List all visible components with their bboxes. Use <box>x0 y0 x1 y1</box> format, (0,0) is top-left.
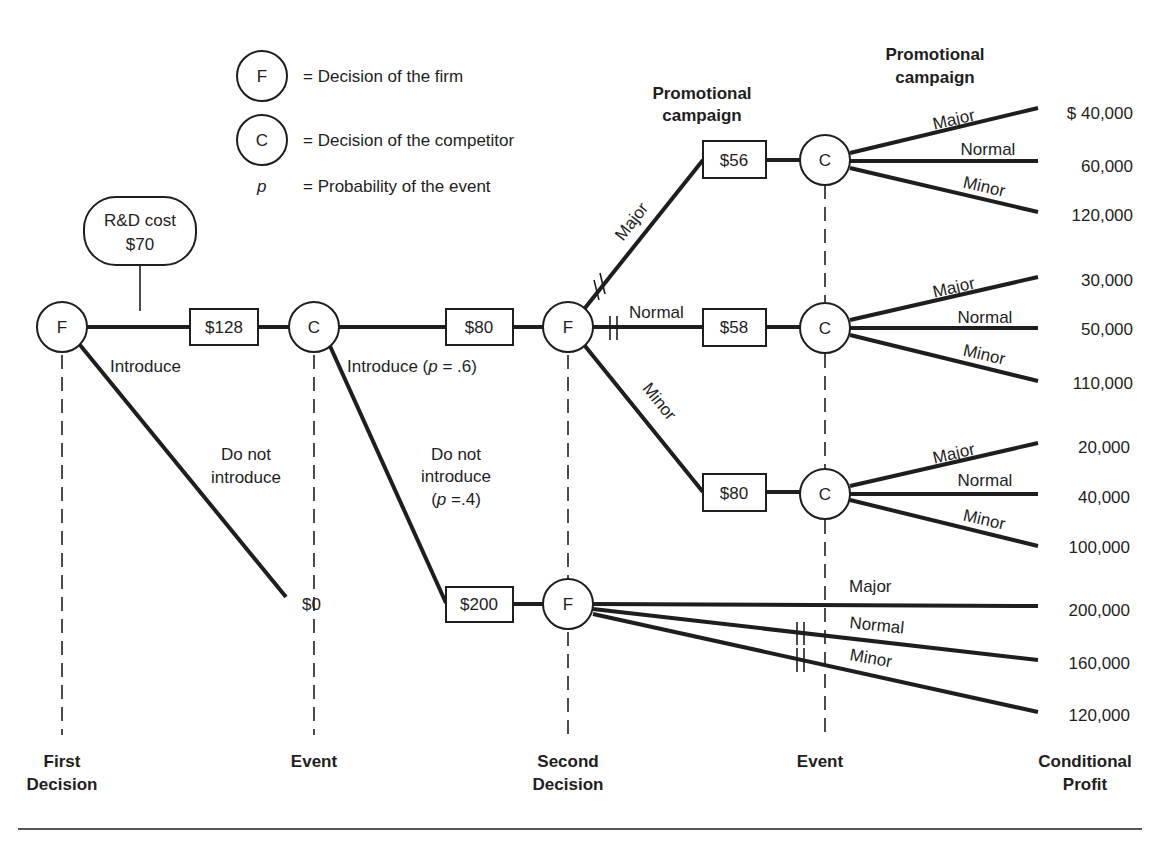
svg-text:200,000: 200,000 <box>1069 601 1130 620</box>
rd-cost-value: $70 <box>126 235 154 254</box>
svg-text:Conditional: Conditional <box>1038 752 1131 771</box>
label-do-not-introduce-1: Do not <box>221 445 271 464</box>
svg-text:F: F <box>563 318 573 337</box>
svg-text:30,000: 30,000 <box>1081 271 1133 290</box>
decision-tree-diagram: F = Decision of the firm C = Decision of… <box>0 0 1165 842</box>
svg-text:120,000: 120,000 <box>1069 706 1130 725</box>
svg-text:$58: $58 <box>720 318 748 337</box>
no-introduce-value: $0 <box>302 595 321 614</box>
svg-text:Normal: Normal <box>961 140 1016 159</box>
svg-text:$128: $128 <box>205 318 243 337</box>
label-normal-mid: Normal <box>629 303 684 322</box>
svg-text:160,000: 160,000 <box>1069 654 1130 673</box>
label-competitor-not-1: Do not <box>431 445 481 464</box>
svg-text:100,000: 100,000 <box>1069 538 1130 557</box>
svg-text:60,000: 60,000 <box>1081 157 1133 176</box>
svg-text:C: C <box>819 485 831 504</box>
column-headers: Promotional campaign Promotional campaig… <box>652 45 984 125</box>
svg-text:20,000: 20,000 <box>1078 438 1130 457</box>
svg-text:40,000: 40,000 <box>1078 488 1130 507</box>
legend-prob-desc: = Probability of the event <box>303 177 491 196</box>
svg-text:$80: $80 <box>465 318 493 337</box>
stage-labels: First Decision Event Second Decision Eve… <box>27 752 1132 794</box>
promo-header-mid-2: campaign <box>662 106 741 125</box>
conditional-profits: $ 40,000 60,000 120,000 30,000 50,000 11… <box>1067 104 1133 725</box>
svg-text:F: F <box>57 318 67 337</box>
svg-text:110,000: 110,000 <box>1073 374 1133 393</box>
label-introduce: Introduce <box>110 357 181 376</box>
svg-text:$200: $200 <box>460 595 498 614</box>
svg-text:Normal: Normal <box>958 471 1013 490</box>
promo-header-right-1: Promotional <box>885 45 984 64</box>
legend-competitor-symbol: C <box>256 131 268 150</box>
svg-text:120,000: 120,000 <box>1072 206 1133 225</box>
svg-text:Major: Major <box>849 577 892 596</box>
svg-text:C: C <box>308 318 320 337</box>
label-competitor-introduce: Introduce (p = .6) <box>347 357 477 376</box>
svg-text:F: F <box>563 595 573 614</box>
svg-text:$80: $80 <box>720 484 748 503</box>
svg-text:Decision: Decision <box>27 775 98 794</box>
svg-text:C: C <box>819 319 831 338</box>
svg-text:Profit: Profit <box>1063 775 1108 794</box>
label-do-not-introduce-2: introduce <box>211 468 281 487</box>
svg-text:First: First <box>44 752 81 771</box>
svg-text:Normal: Normal <box>958 308 1013 327</box>
svg-text:Second: Second <box>537 752 598 771</box>
svg-text:Decision: Decision <box>533 775 604 794</box>
svg-text:C: C <box>819 151 831 170</box>
svg-text:Event: Event <box>291 752 338 771</box>
legend-firm-symbol: F <box>257 67 267 86</box>
label-competitor-not-2: introduce <box>421 467 491 486</box>
promo-header-right-2: campaign <box>895 68 974 87</box>
rd-cost-label: R&D cost <box>104 211 176 230</box>
svg-text:$56: $56 <box>720 151 748 170</box>
svg-text:50,000: 50,000 <box>1081 320 1133 339</box>
legend-firm-desc: = Decision of the firm <box>303 67 463 86</box>
legend-competitor-desc: = Decision of the competitor <box>303 131 515 150</box>
legend: F = Decision of the firm C = Decision of… <box>237 51 515 196</box>
legend-prob-symbol: p <box>256 177 266 196</box>
svg-text:Event: Event <box>797 752 844 771</box>
label-competitor-not-3: (p =.4) <box>431 490 481 509</box>
svg-text:Minor: Minor <box>848 645 893 671</box>
label-major-diag: Major <box>611 199 652 244</box>
rd-cost-callout: R&D cost $70 <box>84 197 196 311</box>
svg-text:$ 40,000: $ 40,000 <box>1067 104 1133 123</box>
promo-header-mid-1: Promotional <box>652 84 751 103</box>
svg-text:Normal: Normal <box>849 613 905 638</box>
